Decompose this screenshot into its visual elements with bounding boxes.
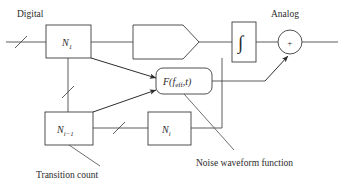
leader-noise-waveform-function — [184, 94, 234, 150]
plus-sign-icon: + — [287, 38, 292, 48]
counter-n-i-box — [148, 112, 191, 145]
annotation-noise-waveform-function: Noise waveform function — [196, 158, 293, 168]
block-diagram: N1 ∫ + Ni−1 Ni — [0, 0, 342, 189]
wire-n1-to-noise — [91, 58, 156, 78]
label-analog: Analog — [271, 9, 299, 19]
dac-block-shape — [133, 25, 199, 59]
integrator-box — [232, 22, 256, 62]
annotation-transition-count: Transition count — [36, 170, 99, 180]
diagram-canvas: N1 ∫ + Ni−1 Ni — [0, 0, 342, 189]
wire-noise-to-summer — [265, 56, 288, 81]
label-digital: Digital — [17, 9, 44, 19]
counter-n-i-minus-1-box — [45, 112, 93, 145]
leader-transition-count — [69, 145, 100, 166]
wire-n-i-minus-1-to-noise — [93, 90, 156, 112]
